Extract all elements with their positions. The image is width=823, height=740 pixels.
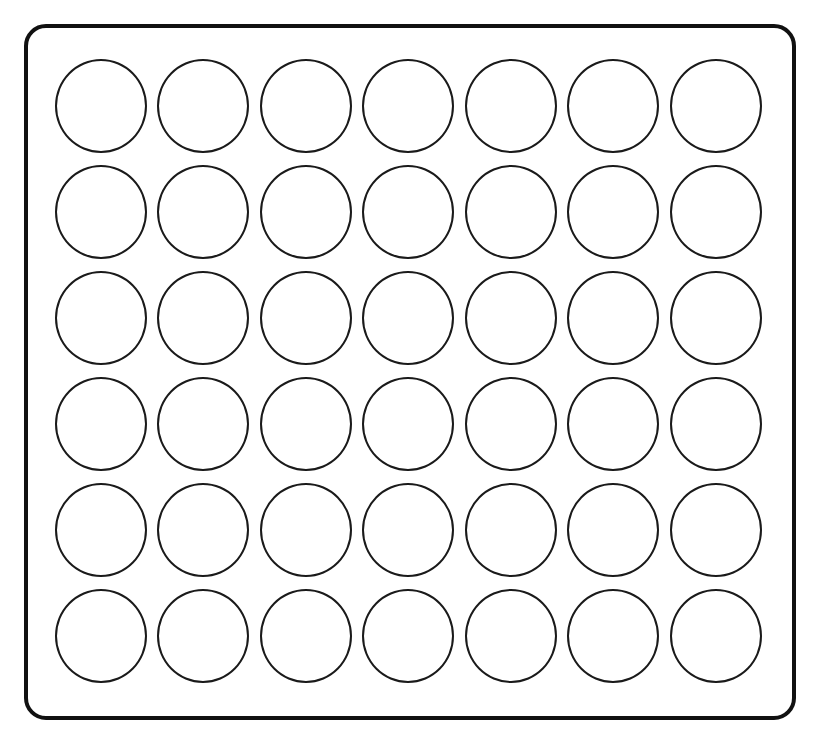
board-cell[interactable]: [670, 377, 762, 471]
board-cell[interactable]: [567, 483, 659, 577]
board-cell[interactable]: [157, 483, 249, 577]
board-cell[interactable]: [670, 483, 762, 577]
board-cell[interactable]: [362, 165, 454, 259]
board-cell[interactable]: [362, 271, 454, 365]
board-cell[interactable]: [567, 59, 659, 153]
board-cell[interactable]: [55, 377, 147, 471]
board-cell[interactable]: [55, 165, 147, 259]
board-cell[interactable]: [362, 589, 454, 683]
game-board: [24, 24, 796, 720]
board-cell[interactable]: [567, 377, 659, 471]
board-cell[interactable]: [260, 483, 352, 577]
board-cell[interactable]: [465, 483, 557, 577]
board-cell[interactable]: [157, 59, 249, 153]
board-cell[interactable]: [465, 271, 557, 365]
board-cell[interactable]: [260, 165, 352, 259]
board-cell[interactable]: [567, 589, 659, 683]
board-cell[interactable]: [55, 483, 147, 577]
board-cell[interactable]: [55, 271, 147, 365]
board-cell[interactable]: [465, 165, 557, 259]
board-cell[interactable]: [465, 377, 557, 471]
board-cell[interactable]: [157, 271, 249, 365]
board-cell[interactable]: [260, 377, 352, 471]
board-cell[interactable]: [260, 271, 352, 365]
board-cell[interactable]: [670, 59, 762, 153]
board-cell[interactable]: [157, 165, 249, 259]
board-cell[interactable]: [362, 377, 454, 471]
board-cell[interactable]: [260, 59, 352, 153]
board-cell[interactable]: [670, 589, 762, 683]
board-cell[interactable]: [362, 483, 454, 577]
board-cell[interactable]: [55, 59, 147, 153]
board-cell[interactable]: [157, 377, 249, 471]
board-cell[interactable]: [465, 59, 557, 153]
board-cell[interactable]: [567, 165, 659, 259]
board-cell[interactable]: [670, 165, 762, 259]
board-cell[interactable]: [362, 59, 454, 153]
board-cell[interactable]: [55, 589, 147, 683]
board-cell[interactable]: [465, 589, 557, 683]
board-cell[interactable]: [670, 271, 762, 365]
board-cell[interactable]: [567, 271, 659, 365]
board-cell[interactable]: [260, 589, 352, 683]
board-cell[interactable]: [157, 589, 249, 683]
